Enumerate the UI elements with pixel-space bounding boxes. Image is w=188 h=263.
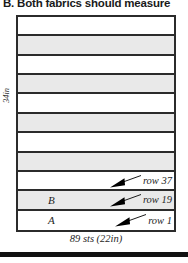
fabric-stripe [18,133,174,152]
fabric-stripe: row 37 [18,172,174,191]
callout-arrow-icon [113,212,147,228]
row-callout-label: row 37 [143,175,172,186]
callout-arrow-icon [108,192,142,208]
row-callout: row 19 [108,191,172,209]
height-dimension-label: 34in [1,88,11,103]
section-letter: A [48,214,55,226]
fabric-stripe [18,114,174,133]
fabric-stripe [18,75,174,94]
callout-arrow-icon [108,173,142,189]
row-callout-label: row 19 [143,194,172,205]
fabric-stripe: Arow 1 [18,211,174,230]
row-callout: row 37 [108,172,172,190]
fabric-stripe [18,153,174,172]
width-dimension-label: 89 sts (22in) [16,233,176,244]
row-callout: row 1 [113,211,172,229]
figure-heading: B. Both fabrics should measure [3,0,188,10]
bottom-divider-rule [0,252,188,257]
fabric-diagram: row 37Brow 19Arow 1 [16,15,176,232]
section-letter: B [48,194,55,206]
fabric-stripe: Brow 19 [18,191,174,210]
row-callout-label: row 1 [148,215,172,226]
figure-panel: B. Both fabrics should measure row 37Bro… [0,0,188,263]
fabric-stripe [18,36,174,55]
fabric-stripe [18,17,174,36]
fabric-stripe [18,56,174,75]
fabric-stripe [18,94,174,113]
